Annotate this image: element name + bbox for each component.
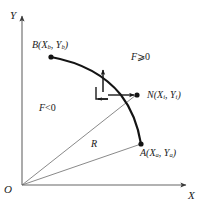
point-n-label: N(Xi, Yi) <box>147 90 181 101</box>
x-axis-label: X <box>188 190 195 201</box>
right-angle-bracket <box>96 87 108 99</box>
point-n-letter: N <box>147 89 154 100</box>
point-marker-a <box>138 141 143 146</box>
region-label-negative: F<0 <box>39 103 56 113</box>
region-label-positive: F⩾0 <box>131 52 150 62</box>
point-a-label: A(Xa, Ya) <box>140 148 176 159</box>
y-axis-label: Y <box>10 10 16 21</box>
region-positive-relation: ⩾ <box>137 51 145 62</box>
region-positive-value: 0 <box>145 51 150 62</box>
radius-label: R <box>91 139 97 149</box>
arc-curve <box>51 57 141 144</box>
region-negative-value: 0 <box>51 102 56 113</box>
radius-line-to-a <box>22 144 141 185</box>
origin-label: O <box>4 184 12 195</box>
figure-container: Y X O B(Xb, Yb) N(Xi, Yi) A(Xa, Ya) F⩾0 … <box>0 0 203 209</box>
point-marker-b <box>48 54 53 59</box>
diagram-canvas <box>0 0 203 209</box>
point-marker-n <box>134 92 139 97</box>
point-b-label: B(Xb, Yb) <box>32 40 68 51</box>
